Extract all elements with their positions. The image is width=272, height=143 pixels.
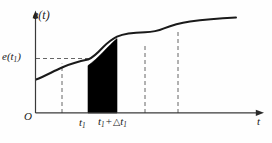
figure-container: e(t) e(t1) O t t1 t1+△t1 bbox=[0, 0, 272, 143]
x-tick-t1-subscript: 1 bbox=[82, 122, 86, 130]
curve-e-of-t bbox=[36, 18, 236, 80]
shaded-increment-band bbox=[88, 39, 117, 113]
y-axis-label: e(t) bbox=[33, 9, 50, 21]
x-axis-label: t bbox=[257, 116, 260, 127]
x-tick-label-t1: t1 bbox=[79, 117, 86, 130]
y-tick-label-e-t1: e(t1) bbox=[2, 51, 21, 64]
y-tick-close-paren: ) bbox=[17, 50, 21, 62]
origin-label: O bbox=[24, 111, 32, 122]
y-tick-base: e(t bbox=[2, 50, 14, 62]
x-tick-label-t1-plus-delta-t1: t1+△t1 bbox=[98, 116, 127, 129]
plus-operator: + bbox=[105, 115, 113, 127]
x-tick-t1dt-subscript2: 1 bbox=[123, 121, 127, 129]
